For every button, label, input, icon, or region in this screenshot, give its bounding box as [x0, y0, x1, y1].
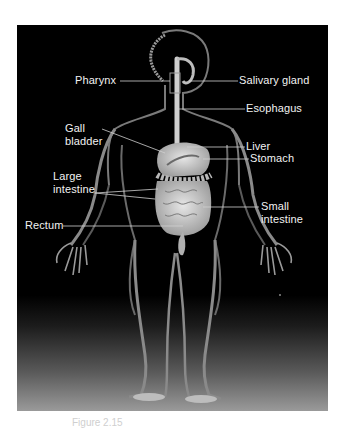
label-esophagus: Esophagus	[246, 102, 302, 115]
label-large-intestine-line1: Large	[53, 170, 82, 183]
label-gall-bladder-line2: bladder	[65, 135, 102, 148]
label-pharynx: Pharynx	[75, 74, 116, 87]
label-small-intestine-line1: Small	[261, 200, 289, 213]
label-small-intestine-line2: intestine	[261, 213, 303, 226]
label-stomach: Stomach	[250, 152, 294, 165]
label-large-intestine-line2: intestine	[53, 183, 95, 196]
left-arm	[57, 129, 115, 275]
esophagus-organ	[170, 59, 193, 143]
label-gall-bladder-line1: Gall	[65, 122, 85, 135]
label-salivary-gland: Salivary gland	[239, 74, 310, 87]
label-rectum: Rectum	[25, 219, 64, 232]
figure-caption: Figure 2.15	[72, 417, 123, 428]
small-intestine-organ	[155, 181, 211, 236]
speck	[279, 294, 281, 296]
liver-stomach-organ	[157, 142, 210, 177]
legs	[129, 240, 221, 403]
diagram-frame: Pharynx Salivary gland Esophagus Gall bl…	[17, 25, 328, 411]
